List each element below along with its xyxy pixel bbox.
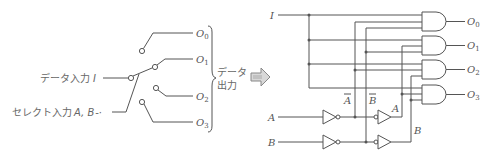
right-arrow-icon: [251, 68, 270, 86]
junction: [308, 63, 311, 66]
junction: [365, 51, 368, 54]
input-b-label: B: [267, 137, 275, 148]
contact-2: [153, 85, 158, 90]
contact-0: [139, 48, 144, 53]
junction: [308, 14, 311, 17]
b-label: B: [413, 125, 421, 136]
input-i-label: I: [269, 10, 275, 21]
circuit-output-3: O3: [467, 89, 480, 102]
junction: [401, 93, 404, 96]
junction: [308, 39, 311, 42]
a-bar-label: A: [343, 95, 351, 106]
output-group-label-1: データ: [217, 66, 247, 78]
contact-1-line: [157, 59, 193, 65]
junction: [410, 99, 413, 102]
switch-output-0: O0: [196, 28, 209, 41]
not-gate-a: [323, 110, 340, 124]
output-group-label-2: 出力: [217, 79, 237, 91]
circuit-output-1: O1: [467, 40, 480, 53]
switch-output-3: O3: [196, 117, 209, 130]
select-input-label: セレクト入力A, B-·: [12, 106, 102, 118]
contact-0-line: [144, 33, 194, 49]
contact-3: [139, 99, 144, 104]
not-gate-b: [323, 135, 340, 149]
circuit-output-0: O0: [467, 16, 480, 29]
contact-2-line: [158, 90, 193, 96]
a-label: A: [391, 103, 399, 114]
contact-3-line: [144, 104, 193, 122]
switch-output-2: O2: [196, 91, 209, 104]
logic-circuit: I A B A B A: [267, 10, 480, 149]
input-a-label: A: [267, 112, 275, 123]
and-gate-3: [422, 85, 446, 104]
switch-output-1: O1: [196, 54, 209, 67]
demultiplexer-figure: データ入力I セレクト入力A, B-· O0 O1 O2 O3 データ 出力: [0, 0, 487, 159]
junction: [354, 69, 357, 72]
switch-blade: [133, 68, 152, 76]
and-gate-2: [422, 60, 446, 79]
buffer-gate-a: [374, 110, 391, 124]
data-input-label: データ入力I: [40, 72, 96, 84]
circuit-output-2: O2: [467, 64, 480, 77]
and-gate-0: [422, 12, 446, 31]
switch-diagram: データ入力I セレクト入力A, B-· O0 O1 O2 O3 データ 出力: [12, 26, 247, 132]
buffer-gate-b: [374, 135, 391, 149]
switch-pivot: [128, 75, 133, 80]
b-bar-label: B: [368, 95, 376, 106]
junction: [365, 141, 368, 144]
junction: [354, 116, 357, 119]
and-gate-1: [422, 36, 446, 55]
output-brace: [208, 26, 216, 132]
contact-1: [152, 64, 157, 69]
